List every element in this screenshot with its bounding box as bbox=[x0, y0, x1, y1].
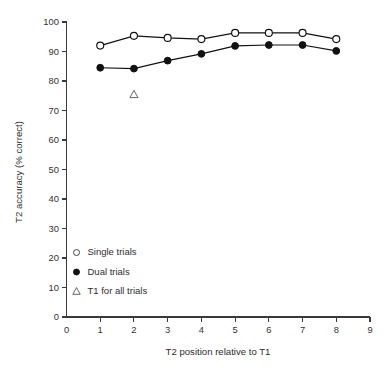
data-point-filled-circle bbox=[333, 48, 340, 55]
x-tick-label: 6 bbox=[266, 324, 271, 335]
y-tick-label: 100 bbox=[43, 16, 59, 27]
data-point-open-circle bbox=[333, 36, 340, 43]
y-tick-label: 90 bbox=[49, 46, 59, 57]
data-point-filled-circle bbox=[164, 57, 171, 64]
data-point-open-circle bbox=[97, 42, 104, 49]
figure-container: 0102030405060708090100 0123456789 T2 pos… bbox=[0, 0, 389, 367]
data-point-filled-circle bbox=[299, 42, 306, 49]
x-tick-label: 0 bbox=[64, 324, 69, 335]
data-point-filled-circle bbox=[97, 64, 104, 71]
x-tick-label: 3 bbox=[165, 324, 170, 335]
y-tick-label: 50 bbox=[49, 164, 59, 175]
data-point-open-circle bbox=[198, 36, 205, 43]
y-tick-label: 40 bbox=[49, 193, 59, 204]
y-tick-label: 70 bbox=[49, 105, 59, 116]
legend-item-label: Single trials bbox=[88, 246, 137, 257]
y-axis-title: T2 accuracy (% correct) bbox=[13, 121, 24, 223]
data-point-open-circle bbox=[299, 29, 306, 36]
y-tick-label: 30 bbox=[49, 223, 59, 234]
line-chart: 0102030405060708090100 0123456789 T2 pos… bbox=[0, 0, 389, 367]
y-tick-label: 0 bbox=[54, 311, 59, 322]
x-tick-label: 9 bbox=[367, 324, 372, 335]
y-tick-label: 20 bbox=[49, 252, 59, 263]
data-point-filled-circle bbox=[265, 42, 272, 49]
legend-item-label: T1 for all trials bbox=[88, 285, 148, 296]
y-tick-label: 10 bbox=[49, 282, 59, 293]
x-tick-label: 4 bbox=[199, 324, 204, 335]
data-point-filled-circle bbox=[232, 42, 239, 49]
y-tick-label: 80 bbox=[49, 75, 59, 86]
x-tick-label: 7 bbox=[300, 324, 305, 335]
data-point-filled-circle bbox=[198, 50, 205, 57]
x-tick-label: 8 bbox=[334, 324, 339, 335]
open-circle-icon bbox=[74, 250, 80, 256]
x-tick-label: 2 bbox=[131, 324, 136, 335]
legend-item-label: Dual trials bbox=[88, 266, 130, 277]
x-tick-label: 1 bbox=[98, 324, 103, 335]
y-tick-label: 60 bbox=[49, 134, 59, 145]
x-tick-label: 5 bbox=[233, 324, 238, 335]
filled-circle-icon bbox=[74, 269, 80, 275]
data-point-open-circle bbox=[265, 29, 272, 36]
data-point-filled-circle bbox=[131, 65, 138, 72]
data-point-open-circle bbox=[130, 32, 137, 39]
data-point-open-circle bbox=[232, 29, 239, 36]
data-point-open-circle bbox=[164, 34, 171, 41]
x-axis-title: T2 position relative to T1 bbox=[166, 346, 271, 357]
